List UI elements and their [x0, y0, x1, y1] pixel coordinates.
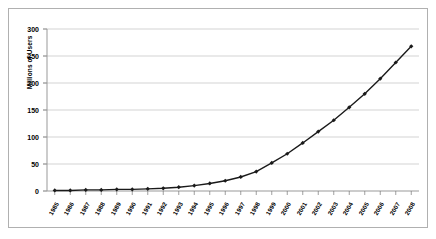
x-axis-tick-labels: 1985198619871988198919901991199219931994… — [9, 9, 429, 229]
x-axis-tick-label: 2000 — [275, 201, 292, 224]
plot-area: 050100150200250300 198519861987198819891… — [9, 9, 429, 229]
x-axis-tick-label: 1986 — [58, 201, 75, 224]
x-axis-tick-label: 2006 — [368, 201, 385, 224]
x-axis-tick-label: 2004 — [337, 201, 354, 224]
x-axis-tick-label: 1990 — [120, 201, 137, 224]
x-axis-tick-label: 1992 — [151, 201, 168, 224]
x-axis-tick-label: 2002 — [306, 201, 323, 224]
chart-frame: Millions of Users 050100150200250300 198… — [8, 8, 428, 228]
x-axis-tick-label: 1994 — [182, 201, 199, 224]
x-axis-tick-label: 1988 — [89, 201, 106, 224]
x-axis-tick-label: 1998 — [244, 201, 261, 224]
x-axis-tick-label: 1996 — [213, 201, 230, 224]
x-axis-tick-label: 2008 — [399, 201, 416, 224]
